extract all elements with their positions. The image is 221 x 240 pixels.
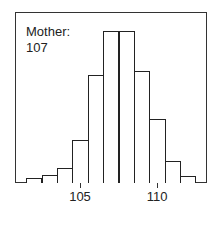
histogram-bar	[103, 31, 119, 183]
histogram-bar	[149, 119, 165, 183]
histogram-bar	[88, 75, 104, 183]
histogram-bar	[119, 31, 135, 183]
histogram-bar	[57, 168, 73, 183]
histogram-bar	[180, 176, 196, 183]
annotation-label: Mother:	[26, 24, 70, 40]
histogram-bar	[42, 175, 58, 183]
x-tick-label: 105	[69, 189, 91, 204]
histogram-bar	[72, 140, 88, 183]
histogram-bar	[134, 71, 150, 183]
x-tick	[157, 183, 158, 188]
x-tick	[80, 183, 81, 188]
histogram-bar	[26, 178, 42, 183]
annotation-value: 107	[26, 40, 70, 56]
x-tick-label: 110	[147, 189, 168, 204]
histogram-bar	[165, 161, 181, 183]
annotation: Mother: 107	[26, 24, 70, 56]
